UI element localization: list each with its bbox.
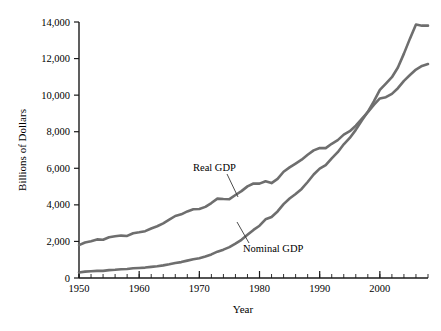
data-series-group [79,25,428,273]
series-annotations: Real GDPNominal GDP [193,162,304,254]
y-tick-label: 12,000 [41,53,70,64]
y-tick-label: 2,000 [46,236,70,247]
y-tick-label: 14,000 [41,17,70,28]
y-axis-tick-labels: 02,0004,0006,0008,00010,00012,00014,000 [41,17,70,284]
y-tick-label: 8,000 [46,126,70,137]
annotation-leader-lines [227,174,249,243]
y-tick-label: 10,000 [41,90,70,101]
x-axis-major-ticks [79,271,380,278]
x-axis-tick-labels: 195019601970198019902000 [69,283,391,294]
x-tick-label: 1990 [309,283,330,294]
x-axis-title: Year [233,303,254,315]
y-axis-title: Billions of Dollars [16,109,28,191]
x-tick-label: 1960 [129,283,150,294]
series-label-real-gdp: Real GDP [193,162,236,173]
y-tick-label: 0 [65,273,70,284]
x-tick-label: 1950 [69,283,90,294]
gdp-line-chart: 02,0004,0006,0008,00010,00012,00014,000 … [0,0,441,331]
x-tick-label: 2000 [369,283,390,294]
x-tick-label: 1970 [189,283,210,294]
y-axis-ticks [74,22,79,278]
chart-svg: 02,0004,0006,0008,00010,00012,00014,000 … [0,0,441,331]
series-line-real-gdp [79,64,428,245]
series-label-nominal-gdp: Nominal GDP [243,243,304,254]
y-tick-label: 6,000 [46,163,70,174]
annotation-leader [227,174,238,197]
y-tick-label: 4,000 [46,199,70,210]
x-tick-label: 1980 [249,283,270,294]
